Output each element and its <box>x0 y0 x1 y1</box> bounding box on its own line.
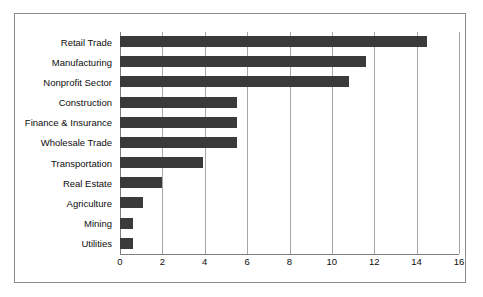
bar <box>120 218 133 229</box>
y-axis-category-labels: Retail TradeManufacturingNonprofit Secto… <box>15 32 116 254</box>
category-label: Retail Trade <box>15 32 116 52</box>
chart-plot-container: Retail TradeManufacturingNonprofit Secto… <box>15 14 467 284</box>
category-label: Finance & Insurance <box>15 113 116 133</box>
bar <box>120 197 143 208</box>
bar-row <box>120 32 459 52</box>
category-label-text: Transportation <box>51 158 116 169</box>
x-axis-line <box>120 254 459 255</box>
bar <box>120 137 237 148</box>
x-tick-label: 16 <box>454 256 465 267</box>
category-label: Mining <box>15 214 116 234</box>
x-tick-label: 8 <box>287 256 292 267</box>
category-label: Nonprofit Sector <box>15 72 116 92</box>
bar-row <box>120 133 459 153</box>
category-label-text: Wholesale Trade <box>41 137 116 148</box>
gridline <box>459 32 460 254</box>
bar-row <box>120 173 459 193</box>
x-tick-label: 14 <box>411 256 422 267</box>
x-tick-label: 10 <box>327 256 338 267</box>
category-label: Agriculture <box>15 193 116 213</box>
category-label-text: Nonprofit Sector <box>43 77 116 88</box>
chart-figure: Retail TradeManufacturingNonprofit Secto… <box>0 0 483 297</box>
x-tick-label: 4 <box>202 256 207 267</box>
bar <box>120 177 162 188</box>
bar-row <box>120 52 459 72</box>
bar <box>120 97 237 108</box>
x-tick-label: 2 <box>160 256 165 267</box>
chart-frame: Retail TradeManufacturingNonprofit Secto… <box>14 13 466 283</box>
bar <box>120 36 427 47</box>
category-label-text: Finance & Insurance <box>25 117 116 128</box>
bar-row <box>120 153 459 173</box>
bar <box>120 157 203 168</box>
plot-area <box>120 32 459 254</box>
bar <box>120 117 237 128</box>
bar <box>120 238 133 249</box>
category-label: Utilities <box>15 234 116 254</box>
category-label-text: Construction <box>59 97 116 108</box>
bar <box>120 56 366 67</box>
bar <box>120 76 349 87</box>
category-label: Manufacturing <box>15 52 116 72</box>
x-tick-label: 6 <box>244 256 249 267</box>
category-label-text: Manufacturing <box>52 57 116 68</box>
x-tick-label: 0 <box>117 256 122 267</box>
category-label: Real Estate <box>15 173 116 193</box>
category-label-text: Agriculture <box>67 198 116 209</box>
bar-row <box>120 214 459 234</box>
category-label: Wholesale Trade <box>15 133 116 153</box>
bar-row <box>120 93 459 113</box>
bar-row <box>120 113 459 133</box>
bar-row <box>120 193 459 213</box>
x-tick-label: 12 <box>369 256 380 267</box>
category-label-text: Retail Trade <box>61 37 116 48</box>
category-label-text: Utilities <box>81 238 116 249</box>
category-label: Construction <box>15 93 116 113</box>
category-label-text: Mining <box>84 218 116 229</box>
category-label-text: Real Estate <box>63 178 116 189</box>
bar-row <box>120 72 459 92</box>
category-label: Transportation <box>15 153 116 173</box>
bar-row <box>120 234 459 254</box>
x-axis-tick-labels: 0246810121416 <box>120 256 459 272</box>
